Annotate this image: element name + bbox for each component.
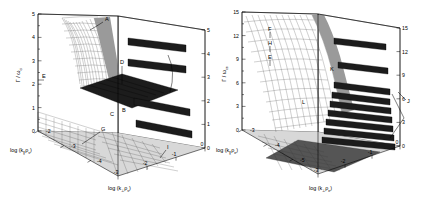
htick-left-1: -2: [143, 160, 148, 166]
svg-text:Γ / ωce: Γ / ωce: [221, 66, 229, 81]
vtick-right-2: 9: [236, 56, 239, 62]
vtick-left-3: 2: [32, 81, 35, 87]
daxis-main-left: log (k: [10, 147, 23, 153]
rtick-right-0: 15: [402, 25, 408, 31]
htick-right-2: -1: [368, 149, 373, 155]
htick-left-3: 0: [201, 141, 204, 147]
vertical-axis-title-left: Γ / ωci: [15, 68, 23, 82]
rtick-left-1: 4: [207, 51, 210, 57]
haxis-main-left: log (k: [108, 185, 121, 191]
vtick-right-1: 12: [233, 33, 239, 39]
label-C: C: [110, 111, 114, 117]
dtick-right-0: -3: [250, 127, 255, 133]
rtick-right-1: 12: [402, 49, 408, 55]
vtick-left-4: 1: [32, 105, 35, 111]
rtick-left-3: 2: [207, 98, 210, 104]
label-E: E: [42, 73, 46, 79]
haxis-main-right: log (k: [309, 185, 322, 191]
vtick-right-0: 15: [233, 9, 239, 15]
svg-text:Γ / ωci: Γ / ωci: [15, 68, 23, 82]
dtick-left-1: -3: [71, 143, 76, 149]
label-A: A: [105, 16, 109, 22]
htick-left-0: -3: [114, 169, 119, 175]
htick-right-0: -3: [314, 167, 319, 173]
horizontal-axis-title-right: log (k⊥ρe): [309, 185, 332, 193]
daxis-close-left: ): [30, 147, 32, 153]
depth-axis-title-right: log (k∥ρe): [216, 147, 238, 155]
panel-left: 5 4 3 2 1 0 Γ / ωci 5 4 3 2 1 0: [0, 0, 214, 197]
rtick-right-5: 0: [402, 143, 405, 149]
vaxis-main-right: Γ / ω: [221, 70, 227, 82]
daxis-close-right: ): [236, 147, 238, 153]
figure-container: 5 4 3 2 1 0 Γ / ωci 5 4 3 2 1 0: [0, 0, 428, 197]
panel-right: 15 12 9 6 3 0 Γ / ωce 15 12 9 6 3 0: [214, 0, 428, 197]
vtick-left-1: 4: [32, 34, 35, 40]
vaxis-sub-right: ce: [225, 66, 229, 70]
label-B: B: [122, 107, 126, 113]
dtick-left-0: -2: [46, 128, 51, 134]
vtick-right-4: 3: [236, 103, 239, 109]
htick-right-3: 0: [396, 139, 399, 145]
vtick-left-0: 5: [32, 11, 35, 17]
label-K: K: [330, 66, 334, 72]
vertical-axis-title-right: Γ / ωce: [221, 66, 229, 81]
rtick-right-2: 9: [402, 72, 405, 78]
label-H: H: [268, 40, 272, 46]
dtick-left-2: -4: [97, 158, 102, 164]
label-F: F: [268, 26, 272, 32]
label-G: G: [101, 126, 105, 132]
rtick-left-0: 5: [207, 27, 210, 33]
htick-left-2: -1: [172, 151, 177, 157]
rtick-left-5: 0: [207, 145, 210, 151]
haxis-close-left: ): [129, 185, 131, 191]
horizontal-axis-title-left: log (k⊥ρs): [108, 185, 131, 193]
rtick-left-4: 1: [207, 121, 210, 127]
label-L: L: [302, 99, 305, 105]
label-J: J: [407, 98, 410, 104]
vaxis-sub-left: ci: [19, 68, 23, 71]
label-E-right: E: [268, 54, 272, 60]
rtick-left-2: 3: [207, 74, 210, 80]
dtick-right-1: -4: [275, 142, 280, 148]
vtick-right-3: 6: [236, 80, 239, 86]
dtick-right-2: -5: [300, 157, 305, 163]
haxis-close-right: ): [330, 185, 332, 191]
vtick-left-2: 3: [32, 58, 35, 64]
label-D: D: [120, 59, 124, 65]
left-wall-right-panel: [242, 12, 318, 132]
depth-axis-title-left: log (k∥ρs): [10, 147, 32, 155]
rtick-right-4: 3: [402, 119, 405, 125]
vaxis-main-left: Γ / ω: [15, 70, 21, 82]
htick-right-1: -2: [341, 158, 346, 164]
daxis-main-right: log (k: [216, 147, 229, 153]
